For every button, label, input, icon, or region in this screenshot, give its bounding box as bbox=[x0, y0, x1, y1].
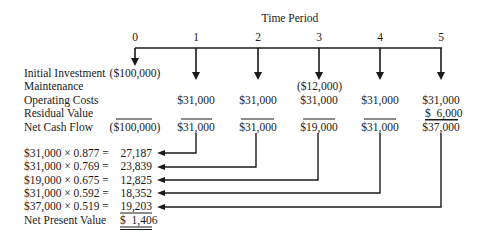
connector-period-2 bbox=[162, 133, 256, 167]
connector-period-4 bbox=[162, 133, 380, 193]
cell-net-cash-flow-p5: $37,000 bbox=[416, 121, 466, 134]
period-label-5: 5 bbox=[431, 31, 451, 44]
row-label-maintenance: Maintenance bbox=[24, 80, 83, 93]
npv-value: $ 1,406 bbox=[120, 214, 157, 227]
cell-operating-costs-p2: $31,000 bbox=[233, 94, 283, 107]
residual-underline bbox=[425, 119, 458, 120]
cell-operating-costs-p5: $31,000 bbox=[416, 94, 466, 107]
cell-net-cash-flow-p1: $31,000 bbox=[171, 121, 221, 134]
cell-operating-costs-p4: $31,000 bbox=[355, 94, 405, 107]
row-label-residual-value: Residual Value bbox=[24, 107, 93, 120]
npv-label: Net Present Value bbox=[24, 214, 106, 227]
connector-period-3 bbox=[162, 133, 318, 180]
calc-formula-3: $19,000 × 0.675 = bbox=[24, 174, 109, 187]
period-label-2: 2 bbox=[248, 31, 268, 44]
period-label-0: 0 bbox=[125, 31, 145, 44]
row-label-net-cash-flow: Net Cash Flow bbox=[24, 121, 93, 134]
time-period-title: Time Period bbox=[250, 12, 330, 25]
period-label-1: 1 bbox=[186, 31, 206, 44]
connector-period-5 bbox=[162, 133, 441, 207]
cell-net-cash-flow-p4: $31,000 bbox=[355, 121, 405, 134]
calc-formula-4: $31,000 × 0.592 = bbox=[24, 187, 109, 200]
cell-net-cash-flow-p3: $19,000 bbox=[294, 121, 344, 134]
connector-period-1 bbox=[162, 133, 196, 153]
cell-operating-costs-p3: $31,000 bbox=[294, 94, 344, 107]
calc-formula-5: $37,000 × 0.519 = bbox=[24, 200, 109, 213]
cell-initial-investment-p0: ($100,000) bbox=[105, 67, 165, 80]
cell-operating-costs-p1: $31,000 bbox=[171, 94, 221, 107]
row-label-initial-investment: Initial Investment bbox=[24, 67, 105, 80]
calc-value-5: 19,203 bbox=[110, 200, 152, 213]
cell-maintenance-p3: ($12,000) bbox=[292, 80, 347, 93]
cell-net-cash-flow-p2: $31,000 bbox=[233, 121, 283, 134]
cell-net-cash-flow-p0: ($100,000) bbox=[105, 121, 165, 134]
period-label-3: 3 bbox=[309, 31, 329, 44]
calc-value-4: 18,352 bbox=[110, 187, 152, 200]
row-label-operating-costs: Operating Costs bbox=[24, 94, 98, 107]
calc-formula-1: $31,000 × 0.877 = bbox=[24, 147, 109, 160]
calc-value-1: 27,187 bbox=[110, 147, 152, 160]
calc-value-3: 12,825 bbox=[110, 174, 152, 187]
calc-formula-2: $31,000 × 0.769 = bbox=[24, 160, 109, 173]
period-label-4: 4 bbox=[370, 31, 390, 44]
calc-value-2: 23,839 bbox=[110, 160, 152, 173]
